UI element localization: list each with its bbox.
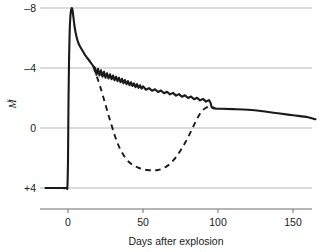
y-tick-label: –8 [24, 2, 36, 14]
chart-canvas: –8–40+4 050100150 M v Days after explosi… [0, 0, 325, 252]
x-tick-label: 0 [65, 216, 71, 228]
y-tick-label: 0 [30, 122, 36, 134]
supernova-light-curve-figure: –8–40+4 050100150 M v Days after explosi… [0, 0, 325, 252]
x-tick-label: 50 [137, 216, 149, 228]
x-tick-label: 100 [209, 216, 227, 228]
x-tick-label: 150 [284, 216, 302, 228]
chart-background [0, 0, 325, 252]
y-tick-label: +4 [24, 182, 36, 194]
x-axis-title: Days after explosion [128, 235, 223, 247]
y-tick-label: –4 [24, 62, 36, 74]
